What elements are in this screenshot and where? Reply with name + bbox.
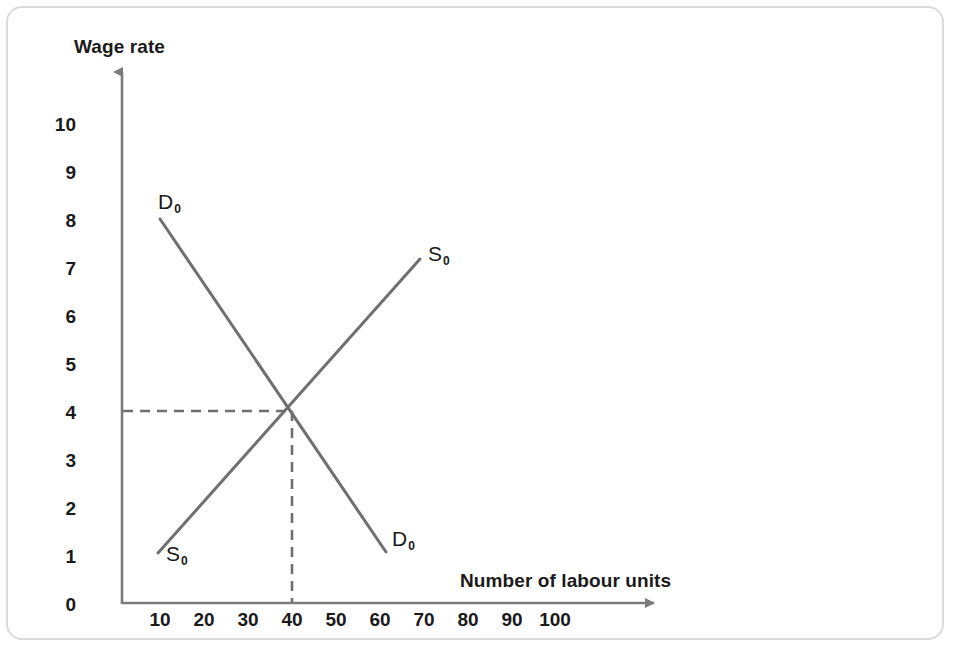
demand-curve-label-top-text: D bbox=[158, 190, 173, 213]
supply-curve-label-top-subscript: 0 bbox=[443, 254, 450, 268]
y-tick-label-4: 4 bbox=[42, 403, 76, 422]
chart-canvas bbox=[0, 0, 956, 662]
demand-curve-label-bottom-subscript: 0 bbox=[408, 539, 415, 553]
supply-curve-label-bottom-subscript: 0 bbox=[181, 554, 188, 568]
x-tick-label-10: 10 bbox=[140, 610, 180, 629]
y-tick-label-0: 0 bbox=[42, 595, 76, 614]
x-tick-label-100: 100 bbox=[535, 610, 575, 629]
demand-curve-d0 bbox=[160, 219, 386, 552]
y-tick-label-10: 10 bbox=[42, 115, 76, 134]
y-tick-label-2: 2 bbox=[42, 499, 76, 518]
demand-curve-label-top: D0 bbox=[158, 191, 180, 212]
y-tick-label-9: 9 bbox=[42, 163, 76, 182]
demand-curve-label-bottom: D0 bbox=[392, 528, 414, 549]
supply-demand-chart: Wage rate Number of labour units 10 9 8 … bbox=[0, 0, 956, 662]
demand-curve-label-bottom-text: D bbox=[392, 527, 407, 550]
y-tick-label-8: 8 bbox=[42, 211, 76, 230]
y-axis-title: Wage rate bbox=[74, 37, 165, 56]
x-tick-label-70: 70 bbox=[404, 610, 444, 629]
x-tick-label-80: 80 bbox=[448, 610, 488, 629]
x-tick-label-30: 30 bbox=[228, 610, 268, 629]
x-tick-label-20: 20 bbox=[184, 610, 224, 629]
x-tick-label-90: 90 bbox=[492, 610, 532, 629]
y-tick-label-1: 1 bbox=[42, 547, 76, 566]
x-axis-title: Number of labour units bbox=[460, 571, 671, 590]
y-tick-label-3: 3 bbox=[42, 451, 76, 470]
y-tick-label-6: 6 bbox=[42, 307, 76, 326]
figure-page: Wage rate Number of labour units 10 9 8 … bbox=[0, 0, 956, 662]
x-tick-label-40: 40 bbox=[272, 610, 312, 629]
supply-curve-label-top: S0 bbox=[428, 243, 449, 264]
x-tick-label-60: 60 bbox=[360, 610, 400, 629]
x-tick-label-50: 50 bbox=[316, 610, 356, 629]
y-tick-label-5: 5 bbox=[42, 355, 76, 374]
supply-curve-label-bottom: S0 bbox=[166, 543, 187, 564]
supply-curve-label-bottom-text: S bbox=[166, 542, 180, 565]
demand-curve-label-top-subscript: 0 bbox=[174, 202, 181, 216]
supply-curve-label-top-text: S bbox=[428, 242, 442, 265]
supply-curve-s0 bbox=[158, 259, 420, 553]
y-tick-label-7: 7 bbox=[42, 259, 76, 278]
